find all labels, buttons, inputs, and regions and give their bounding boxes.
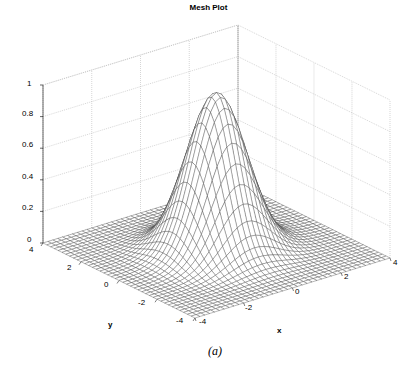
x-axis-label: x	[277, 326, 281, 335]
x-tick-2: 2	[344, 273, 348, 281]
y-axis-label: y	[108, 320, 112, 329]
y-tick-4: 4	[29, 246, 33, 254]
z-tick-0: 0	[27, 236, 31, 244]
figure-caption: (a)	[208, 344, 222, 359]
y-tick-2: 2	[67, 264, 71, 272]
y-tick--2: -2	[138, 299, 145, 307]
chart-title: Mesh Plot	[0, 3, 417, 12]
x-tick--4: -4	[199, 318, 206, 326]
z-tick-0.6: 0.6	[22, 141, 33, 149]
x-tick-0: 0	[295, 288, 299, 296]
y-tick-0: 0	[104, 281, 108, 289]
mesh-surface	[43, 93, 390, 319]
z-tick-0.4: 0.4	[22, 173, 33, 181]
x-tick-4: 4	[393, 259, 397, 267]
mesh-plot-canvas	[0, 0, 417, 373]
y-tick--4: -4	[176, 317, 183, 325]
z-tick-1: 1	[27, 80, 31, 88]
z-tick-0.2: 0.2	[22, 204, 33, 212]
z-tick-0.8: 0.8	[22, 110, 33, 118]
x-tick--2: -2	[245, 304, 252, 312]
